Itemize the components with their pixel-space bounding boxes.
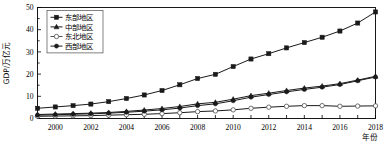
data-point [302, 40, 306, 44]
chart-canvas: 0102030405020002002200420062008201020122… [0, 0, 387, 153]
data-point [195, 109, 199, 113]
data-point [231, 99, 235, 103]
data-point [320, 103, 324, 107]
series-line [38, 77, 376, 115]
data-point [373, 10, 377, 14]
data-point [160, 88, 164, 92]
data-point [124, 96, 128, 100]
x-tick-label-4: 2008 [190, 123, 205, 132]
y-tick-label-2: 20 [26, 70, 34, 79]
data-point [124, 110, 128, 114]
legend-label: 西部地区 [65, 42, 94, 51]
data-point [178, 111, 182, 115]
x-tick-label-7: 2014 [297, 123, 312, 132]
data-point [89, 102, 93, 106]
data-point [284, 90, 288, 94]
x-tick-label-1: 2002 [83, 123, 98, 132]
series-2 [35, 103, 377, 118]
series-1 [35, 74, 378, 117]
y-axis-title: GDP/万亿元 [1, 42, 11, 85]
legend-label: 东部地区 [65, 13, 94, 22]
y-tick-label-1: 10 [26, 92, 34, 101]
data-point [213, 72, 217, 76]
data-point [356, 21, 360, 25]
data-point [53, 105, 57, 109]
y-tick-label-5: 50 [26, 3, 34, 12]
data-point [373, 75, 377, 79]
data-point [107, 111, 111, 115]
y-tick-label-0: 0 [30, 114, 34, 123]
data-point [320, 85, 324, 89]
legend-label: 东北地区 [65, 32, 94, 41]
y-tick-label-4: 40 [26, 25, 34, 34]
data-point [231, 108, 235, 112]
x-tick-label-5: 2010 [226, 123, 241, 132]
series-line [38, 106, 376, 117]
data-point [302, 103, 306, 107]
data-point [356, 104, 360, 108]
data-point [54, 34, 58, 38]
data-point [35, 106, 39, 110]
data-point [178, 83, 182, 87]
data-point [267, 92, 271, 96]
data-point [71, 104, 75, 108]
data-point [249, 57, 253, 61]
x-tick-label-2: 2004 [119, 123, 134, 132]
data-point [302, 87, 306, 91]
data-point [373, 104, 377, 108]
series-line [38, 76, 376, 114]
y-tick-label-3: 30 [26, 48, 34, 57]
x-axis-title: 年份 [362, 132, 378, 142]
x-tick-label-0: 2000 [48, 123, 63, 132]
x-tick-label-6: 2012 [261, 123, 276, 132]
data-point [320, 35, 324, 39]
data-point [249, 106, 253, 110]
data-point [213, 102, 217, 106]
data-point [338, 104, 342, 108]
data-point [142, 109, 146, 113]
gdp-line-chart: 0102030405020002002200420062008201020122… [0, 0, 387, 153]
data-point [107, 100, 111, 104]
data-point [53, 113, 57, 117]
data-point [54, 15, 58, 19]
data-point [142, 93, 146, 97]
x-tick-label-8: 2016 [332, 123, 347, 132]
data-point [356, 79, 360, 83]
data-point [54, 44, 58, 48]
x-tick-label-3: 2006 [154, 123, 169, 132]
data-point [196, 76, 200, 80]
data-point [338, 29, 342, 33]
data-point [178, 106, 182, 110]
data-point [213, 109, 217, 113]
data-point [35, 113, 39, 117]
data-point [71, 112, 75, 116]
data-point [249, 95, 253, 99]
legend-label: 中部地区 [65, 23, 94, 32]
data-point [338, 82, 342, 86]
data-point [231, 64, 235, 68]
data-point [89, 112, 93, 116]
data-point [267, 52, 271, 56]
data-point [284, 104, 288, 108]
x-tick-label-9: 2018 [368, 123, 383, 132]
data-point [196, 104, 200, 108]
data-point [160, 108, 164, 112]
data-point [267, 105, 271, 109]
data-point [284, 46, 288, 50]
